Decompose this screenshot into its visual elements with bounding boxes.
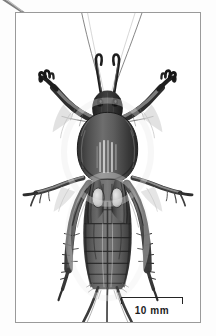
scale-bar-rule <box>121 297 183 304</box>
figure-root: 10 mm <box>0 0 216 336</box>
specimen-plate-frame: 10 mm <box>15 12 201 323</box>
scale-bar-label: 10 mm <box>116 305 188 316</box>
scale-bar: 10 mm <box>116 297 188 316</box>
mole-cricket-illustration <box>16 13 200 322</box>
